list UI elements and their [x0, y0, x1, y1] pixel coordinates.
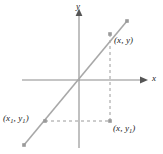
point-label-x1y1: (x1, y1): [3, 114, 29, 123]
point-label-xy1: (x, y1): [113, 124, 135, 133]
point-label-x1y1-sub2: 1: [22, 117, 25, 124]
point-xy-marker: [108, 32, 112, 36]
point-label-xy: (x, y): [114, 36, 133, 45]
secant-line: [24, 21, 127, 145]
point-label-xy1-sub: 1: [129, 127, 132, 134]
point-label-x1y1-close: ): [26, 113, 29, 123]
point-label-xy-text: (x, y): [114, 35, 133, 45]
x-axis-arrowhead: [140, 77, 148, 84]
secant-line-upper-endpoint-marker: [125, 19, 129, 23]
y-axis-label: y: [76, 2, 80, 11]
figure-canvas: [0, 0, 163, 154]
point-label-xy1-close: ): [132, 123, 135, 133]
secant-line-lower-endpoint-marker: [22, 143, 26, 147]
point-label-x1y1-sub1: 1: [10, 117, 13, 124]
coordinate-geometry-figure: (x, y) (x1, y1) (x, y1) y x: [0, 0, 163, 154]
point-x1y1-marker: [43, 119, 47, 123]
point-xy1-marker: [108, 119, 112, 123]
x-axis-label: x: [152, 74, 156, 83]
point-label-xy1-open: (x, y: [113, 123, 129, 133]
